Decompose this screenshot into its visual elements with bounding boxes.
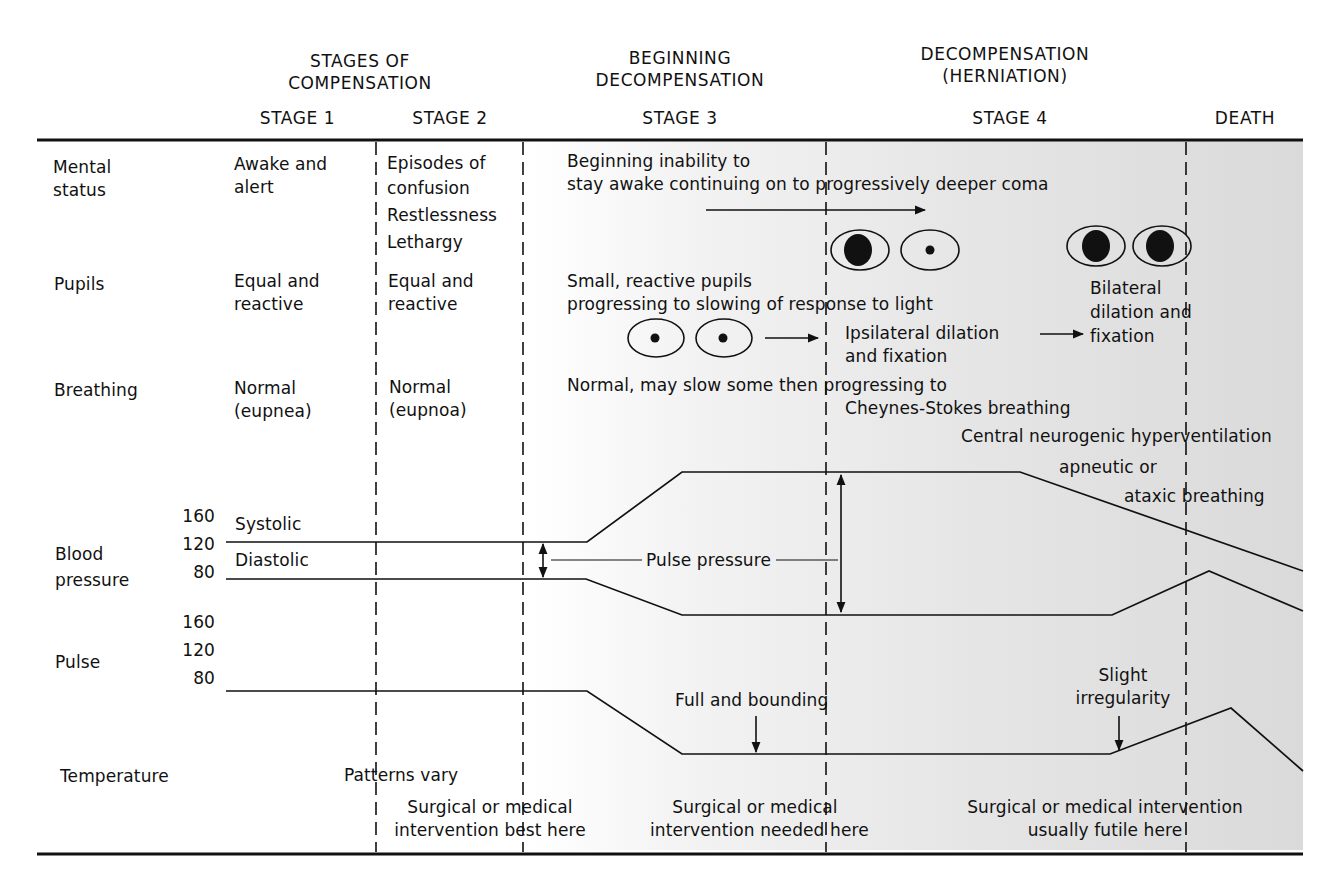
- systolic-line: [226, 472, 1303, 571]
- diagram-graphics: [0, 0, 1331, 879]
- small-reactive-pupils-icon: [628, 319, 752, 357]
- diastolic-line: [226, 571, 1303, 615]
- pulse-line: [226, 691, 1303, 771]
